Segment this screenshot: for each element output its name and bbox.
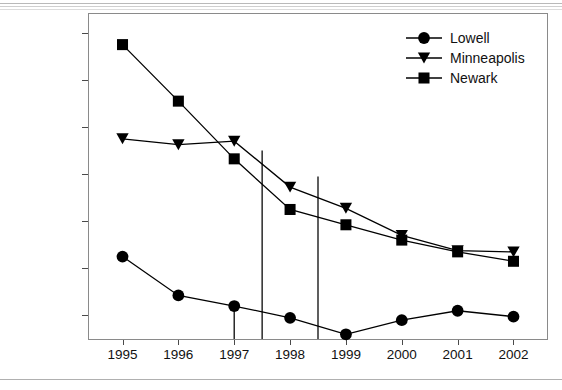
legend-item-newark[interactable]: Newark xyxy=(404,68,544,88)
x-tick-label: 2001 xyxy=(443,347,473,362)
y-tick-mark xyxy=(82,174,88,175)
circle-marker xyxy=(418,32,430,44)
y-tick-mark xyxy=(82,127,88,128)
x-tick-label: 2000 xyxy=(387,347,417,362)
x-tick-mark xyxy=(123,340,124,345)
page-rule-bottom xyxy=(0,379,562,380)
x-tick-mark xyxy=(513,340,514,345)
legend-marker-lowell xyxy=(404,28,444,48)
page-rule-top-2 xyxy=(0,6,562,7)
x-tick-mark xyxy=(178,340,179,345)
x-tick-label: 1996 xyxy=(163,347,193,362)
x-tick-mark xyxy=(458,340,459,345)
y-tick-mark xyxy=(82,33,88,34)
chart-legend: LowellMinneapolisNewark xyxy=(404,28,544,88)
x-tick-label: 1997 xyxy=(219,347,249,362)
legend-label: Minneapolis xyxy=(444,50,525,66)
legend-item-minneapolis[interactable]: Minneapolis xyxy=(404,48,544,68)
y-tick-mark xyxy=(82,268,88,269)
legend-marker-newark xyxy=(404,68,444,88)
x-tick-mark xyxy=(346,340,347,345)
page-rule-top-1 xyxy=(0,3,562,4)
y-tick-mark xyxy=(82,315,88,316)
x-tick-mark xyxy=(402,340,403,345)
x-tick-mark xyxy=(234,340,235,345)
legend-label: Newark xyxy=(444,70,497,86)
legend-marker-minneapolis xyxy=(404,48,444,68)
x-tick-label: 1998 xyxy=(275,347,305,362)
square-marker xyxy=(418,72,429,83)
x-tick-mark xyxy=(290,340,291,345)
legend-label: Lowell xyxy=(444,30,490,46)
x-tick-label: 1999 xyxy=(331,347,361,362)
y-tick-mark xyxy=(82,221,88,222)
x-tick-label: 1995 xyxy=(107,347,137,362)
y-tick-mark xyxy=(82,80,88,81)
page-rule-top-3 xyxy=(0,9,562,10)
legend-item-lowell[interactable]: Lowell xyxy=(404,28,544,48)
x-tick-label: 2002 xyxy=(498,347,528,362)
